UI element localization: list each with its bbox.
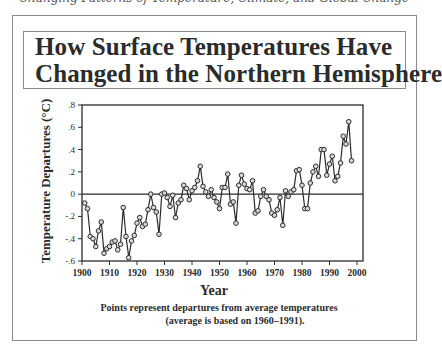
data-point-marker (143, 222, 148, 227)
data-point-marker (107, 244, 112, 249)
data-point-marker (85, 206, 90, 211)
data-point-marker (146, 207, 151, 212)
data-point-marker (236, 183, 241, 188)
data-point-marker (247, 187, 252, 192)
data-point-marker (327, 162, 332, 167)
data-point-marker (135, 221, 140, 226)
data-point-marker (261, 187, 266, 192)
data-point-marker (198, 164, 203, 169)
data-point-marker (209, 187, 214, 192)
data-point-marker (165, 195, 170, 200)
data-point-marker (311, 170, 316, 175)
data-point-marker (93, 244, 98, 249)
x-tick-label: 1900 (73, 268, 92, 278)
data-point-marker (201, 184, 206, 189)
y-tick-label: .6 (68, 122, 75, 132)
data-point-marker (102, 251, 107, 256)
x-tick-label: 1970 (265, 268, 284, 278)
data-point-marker (291, 187, 296, 192)
x-tick-label: 1960 (238, 268, 257, 278)
x-axis-label: Year (0, 283, 428, 299)
x-tick-label: 1950 (210, 268, 229, 278)
y-tick-label: .4 (68, 145, 75, 155)
data-point-marker (162, 191, 167, 196)
data-point-marker (316, 174, 321, 179)
data-point-marker (280, 223, 285, 228)
data-point-marker (313, 164, 318, 169)
chart-note-line-2: (average is based on 1960–1991). (0, 315, 428, 326)
data-point-marker (192, 185, 197, 190)
data-series (82, 119, 353, 260)
data-point-marker (195, 178, 200, 183)
data-point-marker (308, 181, 313, 186)
data-point-marker (203, 190, 208, 195)
y-axis: .8.6.4.20-.2-.4-.6 (65, 100, 82, 266)
data-point-marker (212, 195, 217, 200)
data-point-marker (258, 194, 263, 199)
data-point-marker (157, 232, 162, 237)
data-point-marker (335, 174, 340, 179)
data-point-marker (256, 209, 261, 214)
data-point-marker (129, 239, 134, 244)
x-tick-label: 1910 (100, 268, 119, 278)
data-point-marker (275, 207, 280, 212)
data-point-marker (297, 167, 302, 172)
data-point-marker (272, 213, 277, 218)
data-point-marker (151, 205, 156, 210)
data-point-marker (223, 185, 228, 190)
y-tick-label: 0 (71, 189, 76, 199)
data-point-marker (206, 194, 211, 199)
data-point-marker (234, 221, 239, 226)
data-point-marker (344, 142, 349, 147)
data-point-marker (132, 233, 137, 238)
data-point-marker (346, 119, 351, 124)
y-tick-label: .2 (68, 167, 75, 177)
data-point-marker (170, 193, 175, 198)
data-point-marker (231, 200, 236, 205)
data-point-marker (121, 205, 126, 210)
data-point-marker (250, 178, 255, 183)
data-point-marker (278, 195, 283, 200)
data-point-marker (267, 197, 272, 202)
data-point-marker (324, 173, 329, 178)
x-tick-label: 2000 (348, 268, 367, 278)
data-point-marker (179, 197, 184, 202)
data-point-marker (300, 183, 305, 188)
y-tick-label: .8 (68, 100, 75, 110)
data-point-marker (99, 220, 104, 225)
data-point-marker (341, 134, 346, 139)
data-point-marker (286, 194, 291, 199)
data-point-marker (187, 197, 192, 202)
data-point-marker (330, 154, 335, 159)
data-point-marker (283, 189, 288, 194)
x-tick-label: 1940 (183, 268, 202, 278)
x-tick-label: 1990 (320, 268, 339, 278)
data-point-marker (115, 248, 120, 253)
data-point-marker (168, 204, 173, 209)
data-point-marker (96, 229, 101, 234)
data-point-marker (217, 206, 222, 211)
data-point-marker (242, 182, 247, 187)
data-point-marker (349, 158, 354, 163)
data-point-marker (173, 215, 178, 220)
data-point-marker (91, 236, 96, 241)
data-point-marker (154, 210, 159, 215)
y-tick-label: -.6 (65, 256, 75, 266)
x-tick-label: 1930 (155, 268, 174, 278)
data-point-marker (333, 178, 338, 183)
x-tick-label: 1920 (128, 268, 147, 278)
data-point-marker (239, 173, 244, 178)
data-point-marker (82, 201, 87, 206)
data-point-marker (322, 147, 327, 152)
chart-note-line-1: Points represent departures from average… (0, 302, 428, 313)
data-point-marker (118, 242, 123, 247)
data-point-marker (214, 200, 219, 205)
data-point-marker (126, 255, 131, 260)
x-axis: 1900191019201930194019501960197019801990… (73, 261, 367, 278)
data-point-marker (338, 161, 343, 166)
x-tick-label: 1980 (293, 268, 312, 278)
y-tick-label: -.4 (65, 234, 75, 244)
data-point-marker (148, 192, 153, 197)
data-point-marker (137, 215, 142, 220)
data-point-marker (113, 239, 118, 244)
